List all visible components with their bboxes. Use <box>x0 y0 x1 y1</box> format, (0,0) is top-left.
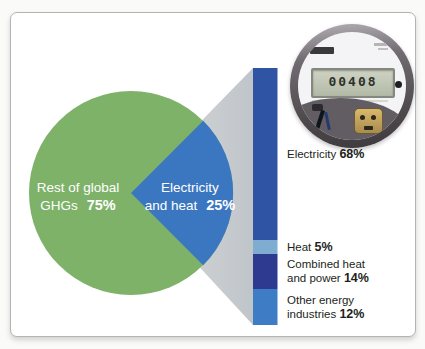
legend-label: Electricity <box>287 148 336 160</box>
pie-label-rest-line2: GHGs 75% <box>40 197 115 213</box>
page: { "pie": { "left_label": { "line1": "Res… <box>0 0 425 349</box>
legend-label-line2: industries <box>287 308 336 320</box>
legend-value: 12% <box>339 307 364 321</box>
meter-button <box>395 81 402 88</box>
bar-segment-other-energy <box>253 289 278 325</box>
legend-label-line1: Combined heat <box>287 258 365 270</box>
legend-value: 68% <box>339 147 364 161</box>
bar-segment-electricity <box>253 68 278 240</box>
meter-logo-mark <box>378 48 388 50</box>
legend-item-heat: Heat 5% <box>287 240 413 254</box>
connector-pin <box>371 115 376 120</box>
legend-label: Heat <box>287 241 311 253</box>
pie-label-elec-prefix: and heat <box>145 198 198 213</box>
bar-segment-combined-heat-power <box>253 254 278 289</box>
legend-label-line2: and power <box>287 272 341 284</box>
meter-reading: 00408 <box>313 70 393 93</box>
pie-label-elec-line2: and heat 25% <box>145 197 235 213</box>
meter-logo-mark <box>374 43 390 46</box>
pie-label-elec-line1: Electricity <box>161 180 219 195</box>
legend-item-other-energy: Other energy industries 12% <box>287 293 413 321</box>
meter-connector <box>354 108 383 134</box>
meter-face: 00408 <box>298 32 406 140</box>
pie-label-elec-value: 25% <box>206 197 235 213</box>
legend-item-electricity: Electricity 68% <box>287 147 413 161</box>
meter-label-bar <box>310 47 334 54</box>
legend-value: 5% <box>315 240 333 254</box>
connector-slot <box>364 126 373 130</box>
pie-label-rest-line1: Rest of global <box>37 180 120 195</box>
electricity-meter-photo: 00408 <box>290 24 414 148</box>
pie-label-rest-prefix: GHGs <box>40 198 78 213</box>
legend-item-combined-heat-power: Combined heat and power 14% <box>287 257 413 285</box>
connector-pin <box>360 115 365 120</box>
bar-segment-heat <box>253 240 278 254</box>
meter-lcd-display: 00408 <box>311 68 395 98</box>
legend-value: 14% <box>344 271 369 285</box>
pie-label-rest-value: 75% <box>87 197 116 213</box>
legend-label-line1: Other energy <box>287 294 354 306</box>
